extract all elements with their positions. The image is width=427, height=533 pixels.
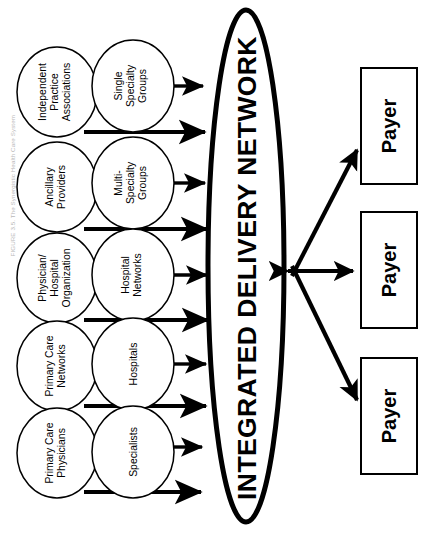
node-label-line: Specialty xyxy=(125,161,136,204)
figure-container: FIGURE 3.5. The Synergistic Health Care … xyxy=(0,0,427,533)
payer-label: Payer xyxy=(378,389,400,444)
node-label-line: Primary Care xyxy=(44,335,55,396)
provider-node-ancillary[interactable]: Ancillary Providers xyxy=(17,142,97,232)
payer-node-top[interactable]: Payer xyxy=(361,68,417,184)
node-label-line: Single xyxy=(113,71,124,100)
payer-node-middle[interactable]: Payer xyxy=(361,212,417,328)
diagram-canvas: Independent Practice Associations Ancill… xyxy=(0,0,427,533)
node-label-line: Networks xyxy=(132,253,143,296)
provider-node-pho[interactable]: Physician/ Hospital Organization xyxy=(17,233,97,323)
node-label-line: Physicians xyxy=(56,428,67,478)
node-label-line: Hospitals xyxy=(128,343,139,386)
integrated-delivery-network-node[interactable]: INTEGRATED DELIVERY NETWORK xyxy=(208,10,284,522)
node-label-line: Hospital xyxy=(120,256,131,294)
provider-node-ipa[interactable]: Independent Practice Associations xyxy=(17,47,97,137)
arrow-network-to-payer-top xyxy=(292,150,357,276)
provider-node-ssg[interactable]: Single Specialty Groups xyxy=(92,40,174,132)
node-label-line: Specialty xyxy=(125,64,136,107)
node-label-line: Physician/ xyxy=(37,254,48,301)
provider-node-pcn[interactable]: Primary Care Networks xyxy=(17,321,97,411)
node-label-line: Providers xyxy=(56,165,67,209)
payer-label: Payer xyxy=(378,99,400,154)
node-label-line: Primary Care xyxy=(44,422,55,483)
arrow-group-inner xyxy=(174,86,207,447)
provider-node-hospitals[interactable]: Hospitals xyxy=(92,318,174,410)
node-label-line: Independent xyxy=(37,63,48,121)
node-label-line: Practice xyxy=(49,73,60,111)
payer-label: Payer xyxy=(378,243,400,298)
node-label-line: Groups xyxy=(137,166,148,200)
node-label-line: Networks xyxy=(56,344,67,387)
arrow-group-payers xyxy=(288,150,357,400)
node-label-line: Ancillary xyxy=(44,167,55,207)
node-label-line: Organization xyxy=(61,248,72,307)
provider-node-hospnet[interactable]: Hospital Networks xyxy=(92,229,174,321)
provider-node-specialists[interactable]: Specialists xyxy=(92,406,174,498)
provider-node-msg[interactable]: Multi- Specialty Groups xyxy=(92,137,174,229)
payer-node-bottom[interactable]: Payer xyxy=(361,358,417,474)
node-label-line: Hospital xyxy=(49,259,60,297)
node-label-line: Groups xyxy=(137,69,148,103)
node-label-line: Associations xyxy=(61,63,72,121)
provider-node-pcp[interactable]: Primary Care Physicians xyxy=(17,408,97,498)
integrated-delivery-network-label: INTEGRATED DELIVERY NETWORK xyxy=(232,36,262,500)
node-label-line: Multi- xyxy=(113,170,124,195)
arrow-network-to-payer-bottom xyxy=(292,266,357,400)
node-label-line: Specialists xyxy=(128,427,139,477)
